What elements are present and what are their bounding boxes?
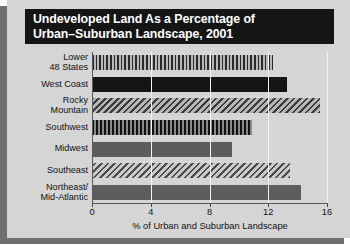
bar [92,77,287,92]
x-tick-label: 0 [89,207,94,217]
x-tick-label: 8 [207,207,212,217]
figure-shadow-left [0,6,7,244]
category-label: Northeast/ Mid-Atlantic [10,182,88,202]
category-label: Lower 48 States [10,52,88,72]
category-label: Midwest [10,143,88,153]
x-tick-label: 16 [322,207,332,217]
bar [92,185,301,200]
category-label: Rocky Mountain [10,95,88,115]
x-axis-title: % of Urban and Suburban Landscape [92,221,328,231]
chart-panel: Undeveloped Land As a Percentage of Urba… [7,0,350,238]
figure-shadow-bottom [6,237,344,244]
chart-figure: Undeveloped Land As a Percentage of Urba… [0,0,350,250]
y-axis-line [92,52,93,204]
gridline [327,52,328,203]
gridline [268,52,269,203]
chart-title-line-1: Undeveloped Land As a Percentage of [33,12,334,27]
plot-area [92,52,327,203]
chart-title-line-2: Urban–Suburban Landscape, 2001 [33,27,334,42]
bar [92,142,232,157]
bar [92,55,273,70]
bar [92,120,252,135]
x-tick-label: 12 [263,207,273,217]
chart-title: Undeveloped Land As a Percentage of Urba… [25,9,334,44]
category-label: Southwest [10,122,88,132]
category-label: West Coast [10,79,88,89]
category-label: Southeast [10,165,88,175]
x-tick-label: 4 [148,207,153,217]
gridline [210,52,211,203]
bar [92,163,290,178]
bar [92,98,320,113]
category-axis-labels: Lower 48 StatesWest CoastRocky MountainS… [7,52,88,203]
gridline [151,52,152,203]
